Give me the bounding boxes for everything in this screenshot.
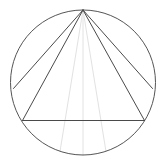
faint-chord-group [60,10,106,155]
figure-canvas: Circle with inscribed triangle and apex … [0,0,165,164]
geometry-diagram: Circle with inscribed triangle and apex … [0,0,165,164]
